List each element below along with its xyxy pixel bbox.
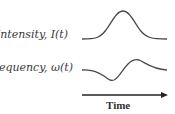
intensity-curve bbox=[82, 11, 167, 39]
time-axis-label: Time bbox=[106, 99, 130, 111]
pulse-diagram bbox=[0, 0, 175, 114]
frequency-curve bbox=[82, 60, 167, 81]
time-arrow bbox=[82, 92, 168, 98]
